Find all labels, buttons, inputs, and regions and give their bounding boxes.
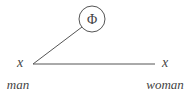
relation-diagram: Φ x x man woman (0, 0, 193, 95)
right-variable: x (161, 55, 169, 70)
left-variable: x (16, 55, 24, 70)
left-label-man: man (7, 77, 29, 92)
edge-man-to-phi (33, 27, 82, 64)
right-label-woman: woman (146, 77, 184, 92)
phi-symbol: Φ (87, 12, 97, 27)
